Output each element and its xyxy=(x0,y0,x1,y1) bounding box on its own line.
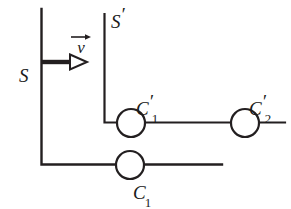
vector-arrow-overbar-icon xyxy=(70,33,92,40)
clock-c2-prime-label-prime: ′ xyxy=(262,91,266,112)
clock-c1-prime-label-prime: ′ xyxy=(149,91,153,112)
clock-c1-prime-label: C′1 xyxy=(136,92,159,122)
clock-c1-circle xyxy=(116,151,144,179)
frame-sprime-label-prime: ′ xyxy=(121,4,125,25)
velocity-label-text: v xyxy=(70,39,92,56)
velocity-vector-label: v xyxy=(70,33,92,56)
frame-s-axis-path xyxy=(42,9,223,165)
frame-sprime-label: S′ xyxy=(111,5,125,31)
clock-c1-prime-label-base: C xyxy=(136,98,149,119)
clock-c1-label-sub: 1 xyxy=(145,195,152,209)
clock-c1-prime-label-sub: 1 xyxy=(152,111,159,126)
clock-c2-prime-label-sub: 2 xyxy=(265,111,272,126)
clock-c2-prime-label: C′2 xyxy=(249,92,272,122)
clock-c1-label-base: C xyxy=(133,182,146,203)
clock-c1-label: C1 xyxy=(133,183,152,206)
frame-sprime-label-text: S xyxy=(111,11,121,32)
figure-canvas: S S′ v C′1 C′2 C1 xyxy=(0,0,291,209)
frame-s-label-text: S xyxy=(19,65,29,86)
clock-c2-prime-label-base: C xyxy=(249,98,262,119)
frame-s-label: S xyxy=(19,66,29,85)
